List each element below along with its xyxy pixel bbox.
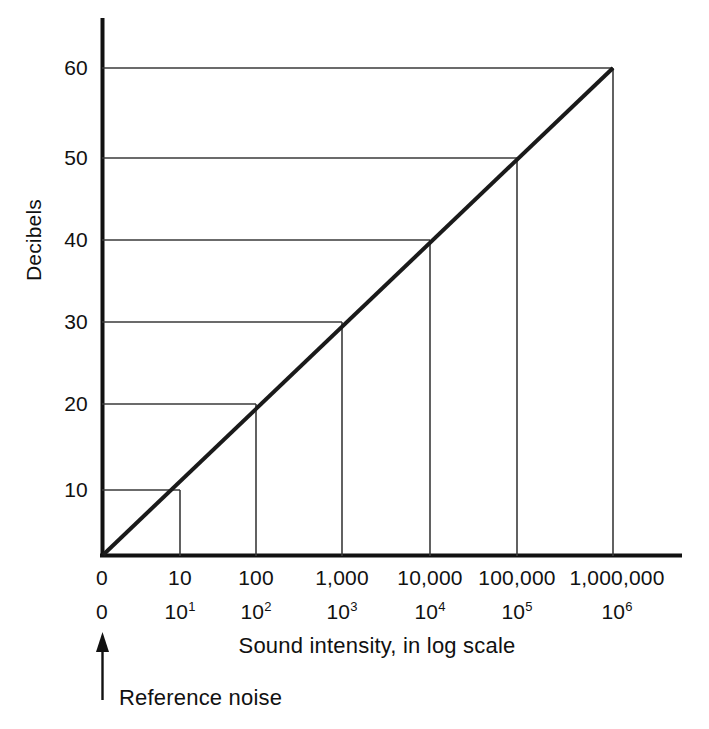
y-tick-label-60: 60: [64, 56, 88, 80]
y-axis-title: Decibels: [22, 199, 46, 281]
x-exp-sup-2: 2: [264, 599, 271, 614]
x-exp-mantissa-0: 0: [96, 600, 108, 623]
x-exp-sup-5: 5: [525, 599, 532, 614]
x-tick-label-1000000: 1,000,000: [569, 566, 664, 590]
x-tick-label-100: 100: [238, 566, 274, 590]
x-exp-label-6: 106: [601, 600, 632, 624]
x-tick-label-100000: 100,000: [478, 566, 555, 590]
horizontal-guide-lines: [102, 68, 613, 490]
x-exp-base-5: 10: [501, 600, 525, 623]
y-tick-label-30: 30: [64, 310, 88, 334]
x-exp-label-4: 104: [414, 600, 445, 624]
x-exp-sup-4: 4: [438, 599, 445, 614]
x-tick-label-10: 10: [168, 566, 192, 590]
x-exp-sup-3: 3: [350, 599, 357, 614]
y-tick-label-10: 10: [64, 478, 88, 502]
x-exp-base-1: 10: [164, 600, 188, 623]
x-exp-sup-6: 6: [625, 599, 632, 614]
x-exp-base-4: 10: [414, 600, 438, 623]
x-tick-label-1000: 1,000: [315, 566, 369, 590]
x-exp-label-0: 0: [96, 600, 108, 624]
x-tick-label-0: 0: [96, 566, 108, 590]
x-tick-label-10000: 10,000: [397, 566, 462, 590]
y-tick-label-20: 20: [64, 392, 88, 416]
x-exp-label-3: 103: [326, 600, 357, 624]
chart-figure: 60 50 40 30 20 10 Decibels 0 10 100 1,00…: [0, 0, 709, 729]
x-exp-base-2: 10: [240, 600, 264, 623]
x-exp-label-5: 105: [501, 600, 532, 624]
x-exp-sup-1: 1: [188, 599, 195, 614]
data-line-decibels: [103, 68, 613, 555]
x-exp-base-6: 10: [601, 600, 625, 623]
x-exp-label-1: 101: [164, 600, 195, 624]
vertical-guide-lines: [180, 68, 613, 556]
y-tick-label-40: 40: [64, 228, 88, 252]
x-exp-label-2: 102: [240, 600, 271, 624]
reference-noise-arrow: [96, 632, 109, 700]
x-axis-title: Sound intensity, in log scale: [239, 633, 516, 659]
y-tick-label-50: 50: [64, 146, 88, 170]
x-exp-base-3: 10: [326, 600, 350, 623]
reference-noise-label: Reference noise: [119, 685, 282, 711]
